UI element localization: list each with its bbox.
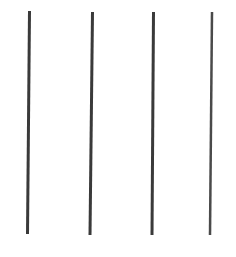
vertical-lines-graphic (0, 0, 236, 257)
vertical-line-4 (210, 12, 212, 235)
line-figure (0, 0, 236, 257)
vertical-line-1 (28, 11, 30, 234)
vertical-line-3 (152, 12, 154, 235)
vertical-line-2 (90, 12, 93, 235)
